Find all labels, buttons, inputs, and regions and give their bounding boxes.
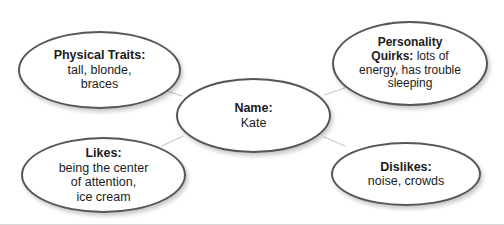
node-physical-traits-label: Physical Traits: [54,48,146,62]
node-dislikes-label: Dislikes: [380,160,431,174]
node-personality-quirks-line-2: energy, has trouble [359,63,461,77]
node-dislikes-text: Dislikes:noise, crowds [333,160,479,189]
node-personality-quirks-text: PersonalityQuirks: lots ofenergy, has tr… [334,36,486,92]
node-physical-traits-line-1: tall, blonde, [68,63,132,77]
node-likes-line-2: of attention, [71,175,136,189]
node-likes-line-3: ice cream [76,190,130,204]
node-personality-quirks-line-1: lots of [417,49,449,63]
node-likes-text: Likes:being the centerof attention,ice c… [23,146,184,204]
node-dislikes[interactable]: Dislikes:noise, crowds [331,142,481,206]
node-name-center-text: Name:Kate [178,101,329,130]
node-name-center[interactable]: Name:Kate [176,78,331,153]
node-dislikes-line-1: noise, crowds [368,174,444,188]
node-likes[interactable]: Likes:being the centerof attention,ice c… [21,137,186,213]
idea-web-diagram: Physical Traits:tall, blonde,braces Pers… [0,0,504,225]
node-personality-quirks-line-3: sleeping [388,76,433,90]
node-name-center-value: Kate [241,116,267,130]
page-bottom-rule [0,224,504,225]
node-likes-line-1: being the center [59,161,149,175]
node-name-center-label: Name: [234,101,272,115]
node-physical-traits[interactable]: Physical Traits:tall, blonde,braces [18,31,181,109]
connector-name-to-likes [162,136,183,146]
node-personality-quirks-label-line-1: Personality [378,35,443,49]
node-personality-quirks[interactable]: PersonalityQuirks: lots ofenergy, has tr… [332,21,488,106]
node-physical-traits-text: Physical Traits:tall, blonde,braces [20,48,179,92]
node-likes-label: Likes: [85,146,121,160]
node-physical-traits-line-2: braces [81,77,119,91]
connector-name-to-dislikes [324,137,345,146]
node-personality-quirks-label-line-2: Quirks: [371,49,413,63]
